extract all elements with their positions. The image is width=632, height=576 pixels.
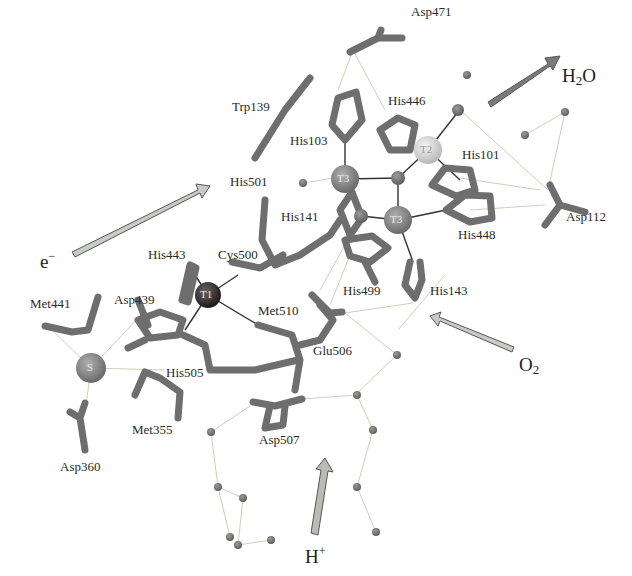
residue-label-asp507: Asp507 xyxy=(259,433,299,446)
electron-label: e− xyxy=(40,250,55,271)
residue-label-his499: His499 xyxy=(343,284,381,297)
residue-label-asp471: Asp471 xyxy=(411,5,451,18)
residue-label-met441: Met441 xyxy=(30,297,70,310)
oxygen-arrow xyxy=(430,312,514,352)
residue-label-his501: His501 xyxy=(230,175,268,188)
residue-label-his101: His101 xyxy=(462,148,500,161)
residue-label-glu506: Glu506 xyxy=(313,344,352,357)
t3b-label: T3 xyxy=(390,214,402,225)
residue-label-met355: Met355 xyxy=(132,423,172,436)
residue-label-his505: His505 xyxy=(166,366,204,379)
electron-arrow xyxy=(72,184,210,257)
residue-label-met510: Met510 xyxy=(258,304,298,317)
proton-label: H+ xyxy=(305,545,326,566)
active-site-diagram: T1 T2 T3 T3 S Asp471 Trp139 His446 His10… xyxy=(0,0,632,576)
residue-label-asp112: Asp112 xyxy=(566,210,606,223)
t2-label: T2 xyxy=(420,144,432,155)
residue-label-cys500: Cys500 xyxy=(218,248,258,261)
proton-arrow xyxy=(311,458,333,535)
residue-label-his448: His448 xyxy=(458,228,496,241)
residue-label-his143: His143 xyxy=(430,284,468,297)
residue-label-trp139: Trp139 xyxy=(232,100,270,113)
residue-label-his103: His103 xyxy=(290,134,328,147)
water-label: H2O xyxy=(562,66,596,87)
water-arrow xyxy=(488,56,560,107)
oxygen-label: O2 xyxy=(519,355,539,376)
residue-label-his141: His141 xyxy=(281,210,319,223)
s-label: S xyxy=(87,362,93,373)
molecular-structure-canvas xyxy=(0,0,632,576)
t3a-label: T3 xyxy=(337,173,349,184)
residue-label-asp360: Asp360 xyxy=(60,460,100,473)
residue-label-his443: His443 xyxy=(148,248,186,261)
residue-label-his446: His446 xyxy=(388,94,426,107)
t1-label: T1 xyxy=(200,289,212,300)
residue-label-asp439: Asp439 xyxy=(114,293,154,306)
